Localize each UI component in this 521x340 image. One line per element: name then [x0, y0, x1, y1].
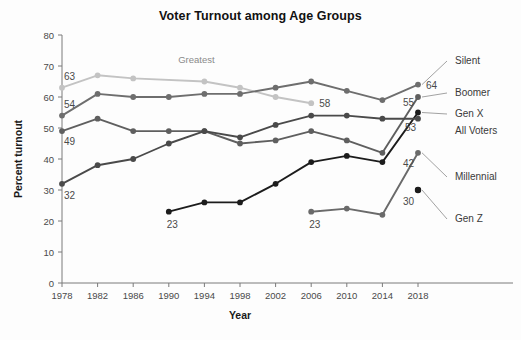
- chart-container: Voter Turnout among Age Groups 010203040…: [0, 0, 521, 340]
- x-tick-label: 2006: [301, 290, 322, 301]
- data-point-greatest: [59, 85, 65, 91]
- x-tick-label: 1998: [229, 290, 250, 301]
- data-point-boomer: [130, 128, 136, 134]
- data-point-all-voters: [344, 113, 350, 119]
- start-value-gen-x: 23: [167, 219, 179, 230]
- x-tick-label: 1994: [194, 290, 215, 301]
- data-point-silent: [202, 91, 208, 97]
- data-point-silent: [380, 97, 386, 103]
- data-point-silent: [415, 82, 421, 88]
- data-point-gen-z: [415, 187, 421, 193]
- data-point-gen-x: [308, 159, 314, 165]
- y-tick-label: 40: [43, 154, 54, 165]
- y-tick-label: 0: [49, 278, 54, 289]
- data-point-silent: [273, 85, 279, 91]
- x-tick-label: 2018: [407, 290, 428, 301]
- end-value-greatest: 58: [319, 98, 331, 109]
- x-tick-label: 2014: [372, 290, 393, 301]
- end-value-silent: 64: [426, 80, 438, 91]
- x-tick-label: 1990: [158, 290, 179, 301]
- data-point-boomer: [237, 141, 243, 147]
- x-tick-label: 1982: [87, 290, 108, 301]
- data-point-all-voters: [130, 156, 136, 162]
- data-point-boomer: [273, 138, 279, 144]
- start-value-greatest: 63: [64, 71, 76, 82]
- start-value-silent: 54: [64, 99, 76, 110]
- data-point-silent: [130, 94, 136, 100]
- series-label-boomer: Boomer: [455, 87, 491, 98]
- data-point-silent: [95, 91, 101, 97]
- data-point-all-voters: [59, 181, 65, 187]
- y-tick-label: 50: [43, 123, 54, 134]
- leader-line: [422, 93, 447, 97]
- leader-line: [422, 153, 447, 177]
- data-point-millennial: [380, 212, 386, 218]
- data-point-boomer: [59, 128, 65, 134]
- data-point-gen-x: [415, 110, 421, 116]
- data-point-boomer: [344, 138, 350, 144]
- data-point-silent: [344, 88, 350, 94]
- y-tick-label: 70: [43, 61, 54, 72]
- data-point-millennial: [415, 150, 421, 156]
- data-point-silent: [166, 94, 172, 100]
- data-point-greatest: [95, 72, 101, 78]
- x-axis-title: Year: [229, 309, 251, 321]
- data-point-gen-x: [166, 209, 172, 215]
- data-point-boomer: [415, 94, 421, 100]
- x-tick-label: 2010: [336, 290, 357, 301]
- data-point-all-voters: [273, 122, 279, 128]
- data-point-boomer: [166, 128, 172, 134]
- data-point-all-voters: [380, 116, 386, 122]
- data-point-all-voters: [166, 141, 172, 147]
- data-point-gen-x: [380, 159, 386, 165]
- series-label-millennial: Millennial: [455, 171, 497, 182]
- data-point-boomer: [380, 150, 386, 156]
- start-value-all-voters: 32: [64, 190, 76, 201]
- data-point-gen-x: [344, 153, 350, 159]
- data-point-gen-x: [273, 181, 279, 187]
- end-value-all-voters: 53: [405, 122, 417, 133]
- y-tick-label: 60: [43, 92, 54, 103]
- series-label-greatest: Greatest: [178, 54, 215, 65]
- data-point-greatest: [273, 94, 279, 100]
- data-point-all-voters: [95, 162, 101, 168]
- y-axis-title: Percent turnout: [12, 119, 24, 198]
- series-label-silent: Silent: [455, 55, 480, 66]
- data-point-greatest: [130, 76, 136, 82]
- y-tick-label: 80: [43, 30, 54, 41]
- data-point-greatest: [237, 85, 243, 91]
- leader-line: [422, 113, 447, 115]
- data-point-millennial: [308, 209, 314, 215]
- end-value-gen-x: 55: [403, 97, 415, 108]
- y-tick-label: 30: [43, 185, 54, 196]
- y-tick-label: 20: [43, 216, 54, 227]
- data-point-millennial: [344, 206, 350, 212]
- end-value-gen-z: 30: [403, 196, 415, 207]
- line-chart-svg: 0102030405060708019781982198619901994199…: [0, 0, 521, 340]
- x-tick-label: 2002: [265, 290, 286, 301]
- x-tick-label: 1986: [123, 290, 144, 301]
- data-point-greatest: [308, 100, 314, 106]
- data-point-boomer: [95, 116, 101, 122]
- data-point-greatest: [202, 79, 208, 85]
- series-label-gen-z: Gen Z: [455, 213, 483, 224]
- data-point-all-voters: [202, 128, 208, 134]
- data-point-silent: [59, 113, 65, 119]
- data-point-gen-x: [202, 200, 208, 206]
- data-point-all-voters: [308, 113, 314, 119]
- data-point-boomer: [308, 128, 314, 134]
- x-tick-label: 1978: [51, 290, 72, 301]
- data-point-silent: [237, 91, 243, 97]
- leader-line: [422, 190, 447, 219]
- data-point-all-voters: [237, 134, 243, 140]
- end-value-millennial: 42: [403, 158, 415, 169]
- data-point-silent: [308, 79, 314, 85]
- start-value-millennial: 23: [309, 219, 321, 230]
- start-value-boomer: 49: [64, 136, 76, 147]
- series-label-gen-x: Gen X: [455, 108, 484, 119]
- y-tick-label: 10: [43, 247, 54, 258]
- series-label-all-voters: All Voters: [455, 125, 497, 136]
- data-point-gen-x: [237, 200, 243, 206]
